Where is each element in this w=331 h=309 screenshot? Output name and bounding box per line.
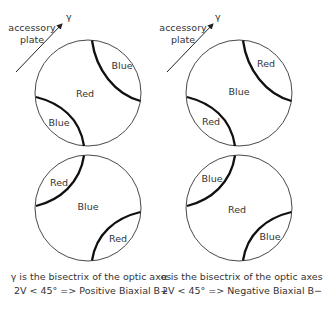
quadrant-lower-right-label: Blue bbox=[259, 231, 280, 242]
interference-figure-top-negative: Blue Red Red bbox=[186, 40, 292, 146]
center-color-label: Red bbox=[76, 88, 94, 99]
quadrant-lower-left-label: Blue bbox=[48, 117, 69, 128]
caption-line-2: 2V < 45° => Negative Biaxial B− bbox=[162, 285, 322, 296]
accessory-label: accessory bbox=[159, 22, 207, 33]
accessory-label: accessory bbox=[8, 22, 56, 33]
biaxial-interference-diagram: γ accessory plate Red Blue Blue Blue Red… bbox=[0, 0, 331, 309]
quadrant-upper-left-label: Red bbox=[50, 177, 68, 188]
gamma-symbol: γ bbox=[66, 11, 72, 22]
center-color-label: Red bbox=[228, 204, 246, 215]
accessory-plate-indicator: γ accessory plate bbox=[8, 11, 72, 72]
plate-label: plate bbox=[20, 34, 44, 45]
gamma-symbol: γ bbox=[215, 11, 221, 22]
center-color-label: Blue bbox=[77, 201, 98, 212]
quadrant-upper-right-label: Red bbox=[257, 58, 275, 69]
accessory-plate-indicator: γ accessory plate bbox=[159, 11, 221, 72]
plate-label: plate bbox=[171, 34, 195, 45]
interference-figure-bottom-positive: Blue Red Red bbox=[35, 155, 141, 261]
quadrant-lower-left-label: Red bbox=[202, 116, 220, 127]
caption-line-2: 2V < 45° => Positive Biaxial B+ bbox=[14, 285, 168, 296]
center-color-label: Blue bbox=[228, 86, 249, 97]
caption-line-1: α is the bisectrix of the optic axes bbox=[161, 271, 322, 282]
interference-figure-bottom-negative: Red Blue Blue bbox=[186, 155, 292, 261]
quadrant-lower-right-label: Red bbox=[109, 233, 127, 244]
panel-positive: γ accessory plate Red Blue Blue Blue Red… bbox=[8, 11, 171, 296]
caption-line-1: γ is the bisectrix of the optic axes bbox=[11, 271, 172, 282]
quadrant-upper-right-label: Blue bbox=[111, 60, 132, 71]
interference-figure-top-positive: Red Blue Blue bbox=[35, 40, 141, 146]
panel-negative: γ accessory plate Blue Red Red Red Blue … bbox=[159, 11, 322, 296]
quadrant-upper-left-label: Blue bbox=[201, 173, 222, 184]
isogyre-upper-right bbox=[243, 41, 292, 102]
